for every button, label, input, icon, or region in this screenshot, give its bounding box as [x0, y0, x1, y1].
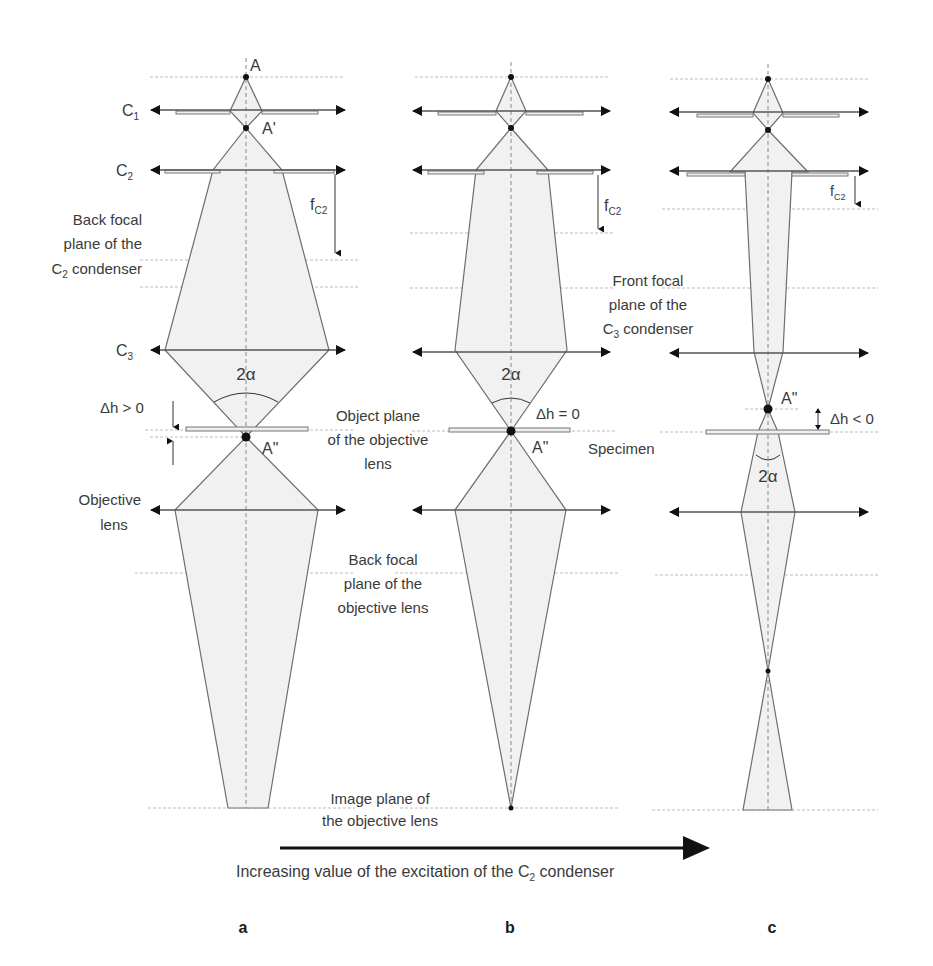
beam-c2-c3	[165, 128, 329, 437]
label-point-a-double-prime: A"	[532, 439, 548, 456]
condenser-ray-diagram: A A' A" C1 C2 C3 fC2 2α Δh > 0 Back foca…	[0, 0, 933, 966]
label-image-plane-2: the objective lens	[322, 812, 438, 829]
label-object-plane-3: lens	[364, 455, 392, 472]
specimen	[186, 427, 308, 431]
point-a-double-prime	[764, 405, 773, 414]
aperture-c2-left	[687, 173, 745, 176]
aperture-c1-right	[262, 111, 318, 114]
label-image-plane-1: Image plane of	[330, 790, 430, 807]
caption: Increasing value of the excitation of th…	[236, 836, 777, 936]
label-c3: C3	[116, 342, 134, 362]
aperture-c1-right	[526, 112, 583, 115]
specimen	[706, 430, 829, 434]
point-a-double-prime	[242, 433, 251, 442]
label-front-focal-c3-1: Front focal	[613, 272, 684, 289]
label-objective-1: Objective	[78, 491, 141, 508]
label-objective-2: lens	[100, 516, 128, 533]
aperture-c2-left	[428, 171, 484, 174]
beam-c2-c3	[730, 130, 808, 409]
aperture-c1-left	[176, 111, 230, 114]
label-angle: 2α	[501, 365, 520, 384]
label-fc2: fC2	[830, 183, 845, 202]
label-back-focal-c2-1: Back focal	[73, 211, 142, 228]
label-point-a-double-prime: A"	[781, 390, 797, 407]
panel-a: A A' A" C1 C2 C3 fC2 2α Δh > 0 Back foca…	[51, 57, 438, 829]
label-front-focal-c3-3: C3 condenser	[603, 320, 694, 340]
aperture-c1-right	[783, 114, 839, 117]
label-c2: C2	[116, 162, 134, 182]
point-a-prime	[765, 127, 771, 133]
point-a	[243, 74, 249, 80]
panel-label-b: b	[505, 919, 515, 936]
excitation-arrow-head	[683, 836, 710, 860]
point-crossover	[766, 669, 771, 674]
point-a	[765, 76, 771, 82]
label-c1: C1	[122, 102, 140, 122]
label-angle: 2α	[758, 467, 777, 486]
label-fc2: fC2	[604, 197, 622, 217]
label-front-focal-c3-2: plane of the	[609, 296, 687, 313]
panel-label-a: a	[239, 919, 248, 936]
label-back-focal-c2-3: C2 condenser	[51, 260, 142, 280]
label-specimen: Specimen	[588, 440, 655, 457]
label-delta-h-a: Δh > 0	[100, 399, 144, 416]
label-point-a-double-prime: A"	[262, 440, 278, 457]
point-a-prime	[508, 125, 514, 131]
label-back-focal-objective-1: Back focal	[348, 551, 417, 568]
label-angle: 2α	[236, 365, 255, 384]
label-object-plane-2: of the objective	[328, 431, 429, 448]
label-delta-h-c: Δh < 0	[830, 410, 874, 427]
aperture-c1-left	[438, 112, 496, 115]
panel-b: fC2 2α Δh = 0 A" Specimen Front focal pl…	[395, 62, 693, 811]
label-back-focal-objective-2: plane of the	[344, 575, 422, 592]
label-point-a-prime: A'	[262, 120, 276, 137]
label-delta-h-b: Δh = 0	[536, 405, 580, 422]
panel-label-c: c	[768, 919, 777, 936]
aperture-c1-left	[697, 114, 753, 117]
label-point-a: A	[250, 57, 261, 74]
label-fc2: fC2	[310, 196, 328, 216]
panel-c: fC2 Δh < 0 A" 2α	[652, 64, 880, 810]
point-a-prime	[243, 125, 249, 131]
aperture-c2-right	[537, 171, 593, 174]
aperture-c2-right	[792, 173, 848, 176]
beam-image	[743, 671, 792, 810]
caption-text: Increasing value of the excitation of th…	[236, 863, 615, 883]
label-back-focal-objective-3: objective lens	[338, 599, 429, 616]
point-a-double-prime	[507, 427, 516, 436]
point-a	[508, 74, 514, 80]
point-image	[509, 806, 514, 811]
label-object-plane-1: Object plane	[336, 407, 420, 424]
label-back-focal-c2-2: plane of the	[64, 235, 142, 252]
